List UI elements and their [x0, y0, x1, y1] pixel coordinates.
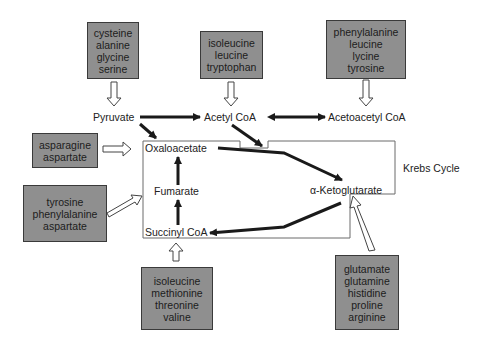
source-box-acetyl-coa: isoleucine leucine tryptophan [200, 31, 263, 79]
source-box-oxaloacetate: asparagine aspartate [32, 133, 98, 168]
amino-acid: tryptophan [207, 61, 257, 73]
metabolite-acetoacetyl-coa: Acetoacetyl CoA [328, 111, 406, 123]
amino-acid: cysteine [94, 27, 133, 39]
arrow-ketoglutarate-to-succinyl-coa [210, 203, 341, 233]
amino-acid: leucine [334, 38, 399, 50]
amino-acid: asparagine [39, 139, 91, 151]
amino-acid: tyrosine [334, 62, 399, 74]
amino-acid: arginine [344, 311, 390, 323]
amino-acid: aspartate [33, 220, 98, 232]
open-arrow-oxaloacetate [103, 142, 131, 156]
amino-acid: phenylalanine [33, 208, 98, 220]
metabolic-diagram: cysteine alanine glycine serine isoleuci… [0, 0, 480, 347]
amino-acid: leucine [207, 49, 257, 61]
metabolite-pyruvate: Pyruvate [93, 111, 134, 123]
amino-acid: glutamate [344, 263, 390, 275]
open-arrow-acetoacetyl-coa [359, 80, 373, 106]
amino-acid: aspartate [39, 151, 91, 163]
amino-acid: alanine [94, 39, 133, 51]
open-arrow-acetyl-coa [224, 82, 238, 106]
metabolite-fumarate: Fumarate [154, 185, 199, 197]
amino-acid: proline [344, 299, 390, 311]
source-box-fumarate: tyrosine phenylalanine aspartate [23, 185, 107, 242]
amino-acid: isoleucine [207, 37, 257, 49]
open-arrow-succinyl-coa [169, 243, 183, 261]
solid-arrows [140, 117, 342, 233]
krebs-cycle-label: Krebs Cycle [403, 162, 460, 174]
arrow-pyruvate-to-oxaloacetate [140, 124, 156, 138]
source-box-succinyl-coa: isoleucine methionine threonine valine [141, 267, 213, 330]
arrow-oxaloacetate-to-ketoglutarate [218, 148, 342, 180]
amino-acid: glutamine [344, 275, 390, 287]
amino-acid: phenylalanine [334, 26, 399, 38]
amino-acid: serine [94, 63, 133, 75]
amino-acid: histidine [344, 287, 390, 299]
amino-acid: tyrosine [33, 196, 98, 208]
source-box-acetoacetyl-coa: phenylalanine leucine lycine tyrosine [326, 20, 406, 79]
open-arrow-fumarate [107, 195, 142, 217]
amino-acid: valine [151, 311, 202, 323]
metabolite-ketoglutarate: α-Ketoglutarate [310, 184, 382, 196]
amino-acid: glycine [94, 51, 133, 63]
amino-acid: isoleucine [151, 275, 202, 287]
metabolite-succinyl-coa: Succinyl CoA [145, 226, 207, 238]
open-arrow-pyruvate [107, 82, 121, 106]
open-arrows [103, 80, 375, 261]
arrow-acetyl-coa-into-cycle [232, 125, 262, 146]
amino-acid: threonine [151, 299, 202, 311]
amino-acid: methionine [151, 287, 202, 299]
metabolite-acetyl-coa: Acetyl CoA [204, 111, 256, 123]
amino-acid: lycine [334, 50, 399, 62]
source-box-pyruvate: cysteine alanine glycine serine [87, 22, 139, 79]
metabolite-oxaloacetate: Oxaloacetate [145, 142, 207, 154]
source-box-ketoglutarate: glutamate glutamine histidine proline ar… [335, 255, 399, 330]
open-arrow-ketoglutarate [350, 196, 375, 251]
